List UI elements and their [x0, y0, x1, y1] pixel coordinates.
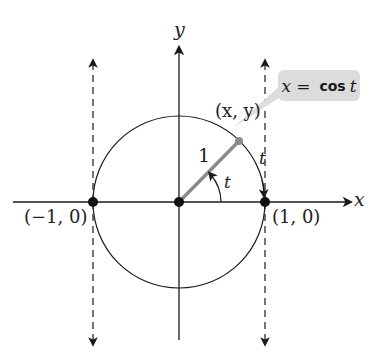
point-on-circle-label: (x, y) [215, 100, 261, 121]
point-right [260, 197, 270, 207]
callout-arg: t [350, 76, 357, 96]
point-left-label: (−1, 0) [24, 206, 87, 227]
x-axis-label: x [354, 188, 365, 210]
point-origin [174, 197, 184, 207]
arc-length-arrow [262, 180, 264, 194]
point-left [88, 197, 98, 207]
diagram-canvas [0, 0, 382, 364]
cosine-callout: x = cos t [278, 70, 360, 101]
callout-equals: = [296, 76, 310, 96]
y-axis-label: y [174, 18, 185, 40]
callout-lhs: x [282, 76, 292, 96]
arc-length-label: t [259, 148, 266, 168]
point-on-circle [235, 137, 243, 145]
angle-label: t [224, 172, 231, 192]
angle-arc [211, 175, 221, 202]
point-right-label: (1, 0) [272, 206, 320, 227]
unit-circle-diagram: y x (x, y) 1 t t (−1, 0) (1, 0) x = cos … [0, 0, 382, 364]
callout-fn: cos [319, 78, 345, 94]
radius-label: 1 [198, 144, 210, 166]
